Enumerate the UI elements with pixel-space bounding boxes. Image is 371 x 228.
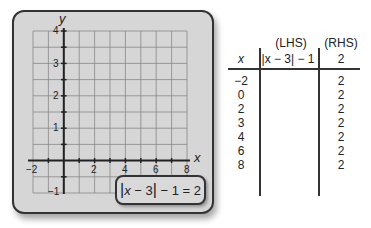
row-rhs: 2 bbox=[321, 158, 361, 172]
row-x: 4 bbox=[226, 130, 256, 144]
equation-rest: − 1 = 2 bbox=[157, 183, 201, 198]
header-rhs: 2 bbox=[321, 52, 361, 66]
y-tick-4: 4 bbox=[53, 25, 59, 36]
header-lhs: |x − 3| − 1 bbox=[258, 52, 318, 66]
x-tick-6: 6 bbox=[153, 164, 159, 175]
y-tick-2: 2 bbox=[53, 90, 59, 101]
x-tick-4: 4 bbox=[122, 164, 128, 175]
column-divider-1 bbox=[259, 48, 261, 196]
header-x: x bbox=[226, 52, 256, 66]
x-tick-8: 8 bbox=[184, 164, 190, 175]
row-x: 6 bbox=[226, 144, 256, 158]
row-rhs: 2 bbox=[321, 144, 361, 158]
row-x: 3 bbox=[226, 116, 256, 130]
row-x: 2 bbox=[226, 102, 256, 116]
x-tick-2: 2 bbox=[91, 164, 97, 175]
row-rhs: 2 bbox=[321, 130, 361, 144]
column-divider-2 bbox=[318, 48, 320, 196]
row-rhs: 2 bbox=[321, 102, 361, 116]
row-x: −2 bbox=[226, 74, 256, 88]
header-lhs-tag: (LHS) bbox=[261, 36, 321, 50]
y-tick-neg1: −1 bbox=[48, 186, 59, 197]
row-x: 8 bbox=[226, 158, 256, 172]
x-tick-neg2: −2 bbox=[26, 164, 37, 175]
row-x: 0 bbox=[226, 88, 256, 102]
lhs-rhs-table: (LHS) (RHS) x |x − 3| − 1 2 −2 2 0 2 2 2… bbox=[226, 36, 366, 196]
header-rhs-tag: (RHS) bbox=[321, 36, 361, 50]
header-divider bbox=[228, 68, 360, 70]
row-rhs: 2 bbox=[321, 88, 361, 102]
row-rhs: 2 bbox=[321, 74, 361, 88]
row-rhs: 2 bbox=[321, 116, 361, 130]
equation-box: | x − 3 | − 1 = 2 bbox=[115, 175, 206, 205]
y-tick-1: 1 bbox=[53, 122, 59, 133]
y-axis-label: y bbox=[59, 11, 66, 26]
x-axis-label: x bbox=[194, 150, 201, 165]
equation-inner: − 3 bbox=[131, 183, 153, 198]
y-tick-3: 3 bbox=[53, 58, 59, 69]
